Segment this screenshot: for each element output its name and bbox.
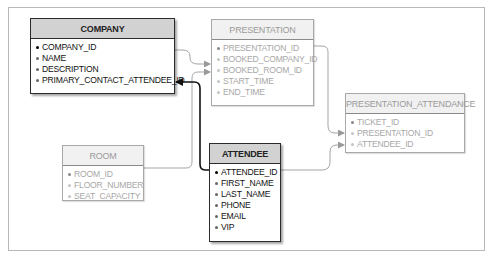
field-bullet-icon — [217, 69, 220, 72]
field-bullet-icon — [36, 57, 39, 60]
field-bullet-icon — [215, 226, 218, 229]
field-bullet-icon — [215, 193, 218, 196]
link-company-presentation — [174, 50, 210, 64]
primary-key-bullet-icon — [351, 121, 354, 124]
field-bullet-icon — [351, 143, 354, 146]
field-primary-contact-attendee-id: PRIMARY_CONTACT_ATTENDEE_ID — [36, 75, 174, 86]
field-last-name: LAST_NAME — [215, 189, 280, 200]
field-attendee-id: ATTENDEE_ID — [351, 139, 464, 150]
field-presentation-id: PRESENTATION_ID — [351, 128, 464, 139]
field-phone: PHONE — [215, 200, 280, 211]
field-first-name: FIRST_NAME — [215, 178, 280, 189]
field-vip: VIP — [215, 222, 280, 233]
field-seat-capacity: SEAT_CAPACITY — [68, 191, 143, 202]
entity-title: ATTENDEE — [210, 144, 280, 164]
entity-room[interactable]: ROOM ROOM_ID FLOOR_NUMBER SEAT_CAPACITY — [62, 145, 144, 201]
field-bullet-icon — [217, 91, 220, 94]
entity-title: COMPANY — [31, 19, 174, 39]
field-ticket-id: TICKET_ID — [351, 117, 464, 128]
field-presentation-id: PRESENTATION_ID — [217, 43, 313, 54]
field-booked-company-id: BOOKED_COMPANY_ID — [217, 54, 313, 65]
field-end-time: END_TIME — [217, 87, 313, 98]
field-bullet-icon — [351, 132, 354, 135]
field-floor-number: FLOOR_NUMBER — [68, 180, 143, 191]
link-attendee-attendance — [280, 145, 344, 170]
field-room-id: ROOM_ID — [68, 169, 143, 180]
entity-presentation-attendance[interactable]: PRESENTATION_ATTENDANCE TICKET_ID PRESEN… — [345, 93, 465, 153]
field-bullet-icon — [36, 68, 39, 71]
field-bullet-icon — [215, 215, 218, 218]
field-bullet-icon — [217, 58, 220, 61]
entity-presentation[interactable]: PRESENTATION PRESENTATION_ID BOOKED_COMP… — [211, 19, 314, 106]
primary-key-bullet-icon — [215, 171, 218, 174]
field-attendee-id: ATTENDEE_ID — [215, 167, 280, 178]
field-bullet-icon — [36, 79, 39, 82]
field-company-id: COMPANY_ID — [36, 42, 174, 53]
field-description: DESCRIPTION — [36, 64, 174, 75]
link-presentation-attendance — [313, 46, 344, 133]
field-name: NAME — [36, 53, 174, 64]
entity-title: PRESENTATION — [212, 20, 313, 40]
field-bullet-icon — [215, 182, 218, 185]
primary-key-bullet-icon — [68, 173, 71, 176]
field-bullet-icon — [68, 184, 71, 187]
entity-title: PRESENTATION_ATTENDANCE — [346, 94, 464, 114]
field-bullet-icon — [68, 195, 71, 198]
primary-key-bullet-icon — [217, 47, 220, 50]
entity-company[interactable]: COMPANY COMPANY_ID NAME DESCRIPTION PRIM… — [30, 18, 175, 94]
entity-attendee[interactable]: ATTENDEE ATTENDEE_ID FIRST_NAME LAST_NAM… — [209, 143, 281, 242]
entity-title: ROOM — [63, 146, 143, 166]
primary-key-bullet-icon — [36, 46, 39, 49]
field-bullet-icon — [217, 80, 220, 83]
field-booked-room-id: BOOKED_ROOM_ID — [217, 65, 313, 76]
field-start-time: START_TIME — [217, 76, 313, 87]
field-bullet-icon — [215, 204, 218, 207]
field-email: EMAIL — [215, 211, 280, 222]
